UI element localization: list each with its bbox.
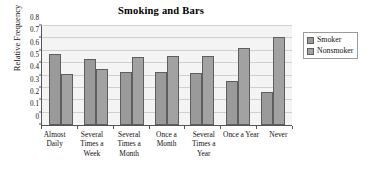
legend-label: Smoker xyxy=(317,36,341,44)
bar xyxy=(273,37,285,125)
bar xyxy=(261,92,273,125)
legend-swatch-icon xyxy=(307,48,314,55)
x-axis-tick-label: Several Times a Year xyxy=(185,130,222,158)
bar xyxy=(155,72,167,125)
bar-group xyxy=(78,26,113,125)
chart-legend: SmokerNonsmoker xyxy=(303,32,358,59)
bar-groups xyxy=(42,26,292,125)
bar xyxy=(238,48,250,125)
bar-group xyxy=(256,26,291,125)
x-axis-tick-mark xyxy=(149,126,150,129)
legend-swatch-icon xyxy=(307,37,314,44)
bar xyxy=(167,56,179,125)
bar xyxy=(120,72,132,125)
x-axis-tick-mark xyxy=(113,126,114,129)
bar-group xyxy=(114,26,149,125)
x-axis-tick-label: Almost Daily xyxy=(36,130,73,158)
y-axis-tick-label: 0.7 xyxy=(30,28,39,35)
x-axis-tick-mark xyxy=(41,126,42,129)
chart-title: Smoking and Bars xyxy=(30,5,292,16)
x-axis-tick-label: Once a Month xyxy=(148,130,185,158)
bar-group xyxy=(149,26,184,125)
bar-group xyxy=(185,26,220,125)
y-axis-tick-label: 0.4 xyxy=(30,65,39,72)
y-axis-tick-label: 0.6 xyxy=(30,40,39,47)
y-axis-tick-label: 0.1 xyxy=(30,102,39,109)
y-axis-tick-label: 0.8 xyxy=(30,15,39,22)
bar xyxy=(226,81,238,125)
bar xyxy=(61,74,73,125)
y-axis-tick-label: 0.2 xyxy=(30,89,39,96)
y-axis-tick-label: 0 xyxy=(35,114,39,121)
bar xyxy=(132,57,144,125)
x-axis-tick-mark xyxy=(256,126,257,129)
plot-area-wrapper: 00.10.20.30.40.50.60.70.8 xyxy=(41,26,292,126)
bar xyxy=(49,54,61,125)
x-axis-tick-label: Several Times a Week xyxy=(73,130,110,158)
bar xyxy=(84,59,96,125)
bar xyxy=(96,69,108,125)
legend-label: Nonsmoker xyxy=(317,47,353,55)
bar-group xyxy=(220,26,255,125)
x-axis-tick-mark xyxy=(292,126,293,129)
x-axis-tick-label: Once a Year xyxy=(222,130,259,158)
x-axis-tick-label: Several Times a Month xyxy=(111,130,148,158)
x-axis-tick-mark xyxy=(77,126,78,129)
bar-group xyxy=(43,26,78,125)
y-axis-tick-label: 0.5 xyxy=(30,52,39,59)
bar xyxy=(190,73,202,125)
plot-area: 00.10.20.30.40.50.60.70.8 xyxy=(41,26,292,126)
x-axis-labels: Almost DailySeveral Times a WeekSeveral … xyxy=(36,130,297,158)
x-axis-tick-mark xyxy=(184,126,185,129)
legend-item[interactable]: Smoker xyxy=(307,36,353,44)
x-axis-tick-mark xyxy=(220,126,221,129)
bar xyxy=(202,56,214,125)
y-axis-tick-label: 0.3 xyxy=(30,77,39,84)
y-axis-label: Relative Frequency xyxy=(12,0,22,88)
x-axis-tick-label: Never xyxy=(260,130,297,158)
legend-item[interactable]: Nonsmoker xyxy=(307,47,353,55)
chart-figure: Smoking and Bars Relative Frequency 00.1… xyxy=(0,0,385,171)
